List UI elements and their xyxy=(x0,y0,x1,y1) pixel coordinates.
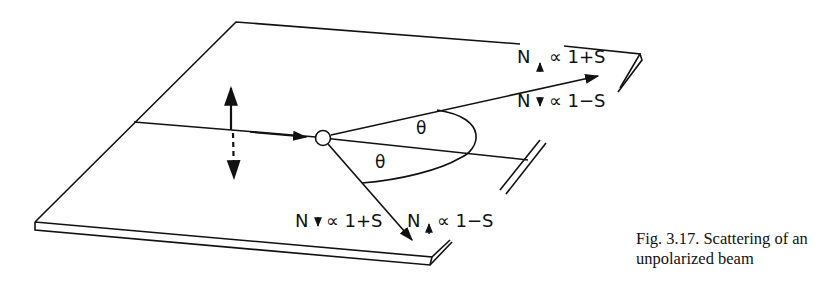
spin-down-dashed-arrow xyxy=(233,133,234,178)
scattering-target xyxy=(316,131,331,146)
theta-upper-label: θ xyxy=(416,118,426,138)
theta-lower-label: θ xyxy=(375,152,385,172)
label-lower-left: N ∝ 1+S xyxy=(295,210,383,231)
svg-text:∝ 1−S: ∝ 1−S xyxy=(549,90,606,111)
incident-beam xyxy=(250,132,306,137)
svg-text:∝ 1−S: ∝ 1−S xyxy=(437,210,494,231)
svg-text:∝ 1+S: ∝ 1+S xyxy=(326,210,383,231)
label-upper-right-bottom: N ∝ 1−S xyxy=(517,90,606,111)
svg-text:∝ 1+S: ∝ 1+S xyxy=(549,46,606,67)
label-upper-right-top: N ∝ 1+S xyxy=(517,46,606,72)
svg-text:N: N xyxy=(517,46,530,67)
label-lower-right: N ∝ 1−S xyxy=(407,210,494,234)
svg-text:N: N xyxy=(517,90,530,111)
svg-text:N: N xyxy=(407,210,420,231)
figure-caption: Fig. 3.17. Scattering of an unpolarized … xyxy=(636,229,808,269)
caption-line-1: Fig. 3.17. Scattering of an xyxy=(636,229,808,249)
svg-text:N: N xyxy=(295,210,308,231)
caption-line-2: unpolarized beam xyxy=(636,249,808,269)
